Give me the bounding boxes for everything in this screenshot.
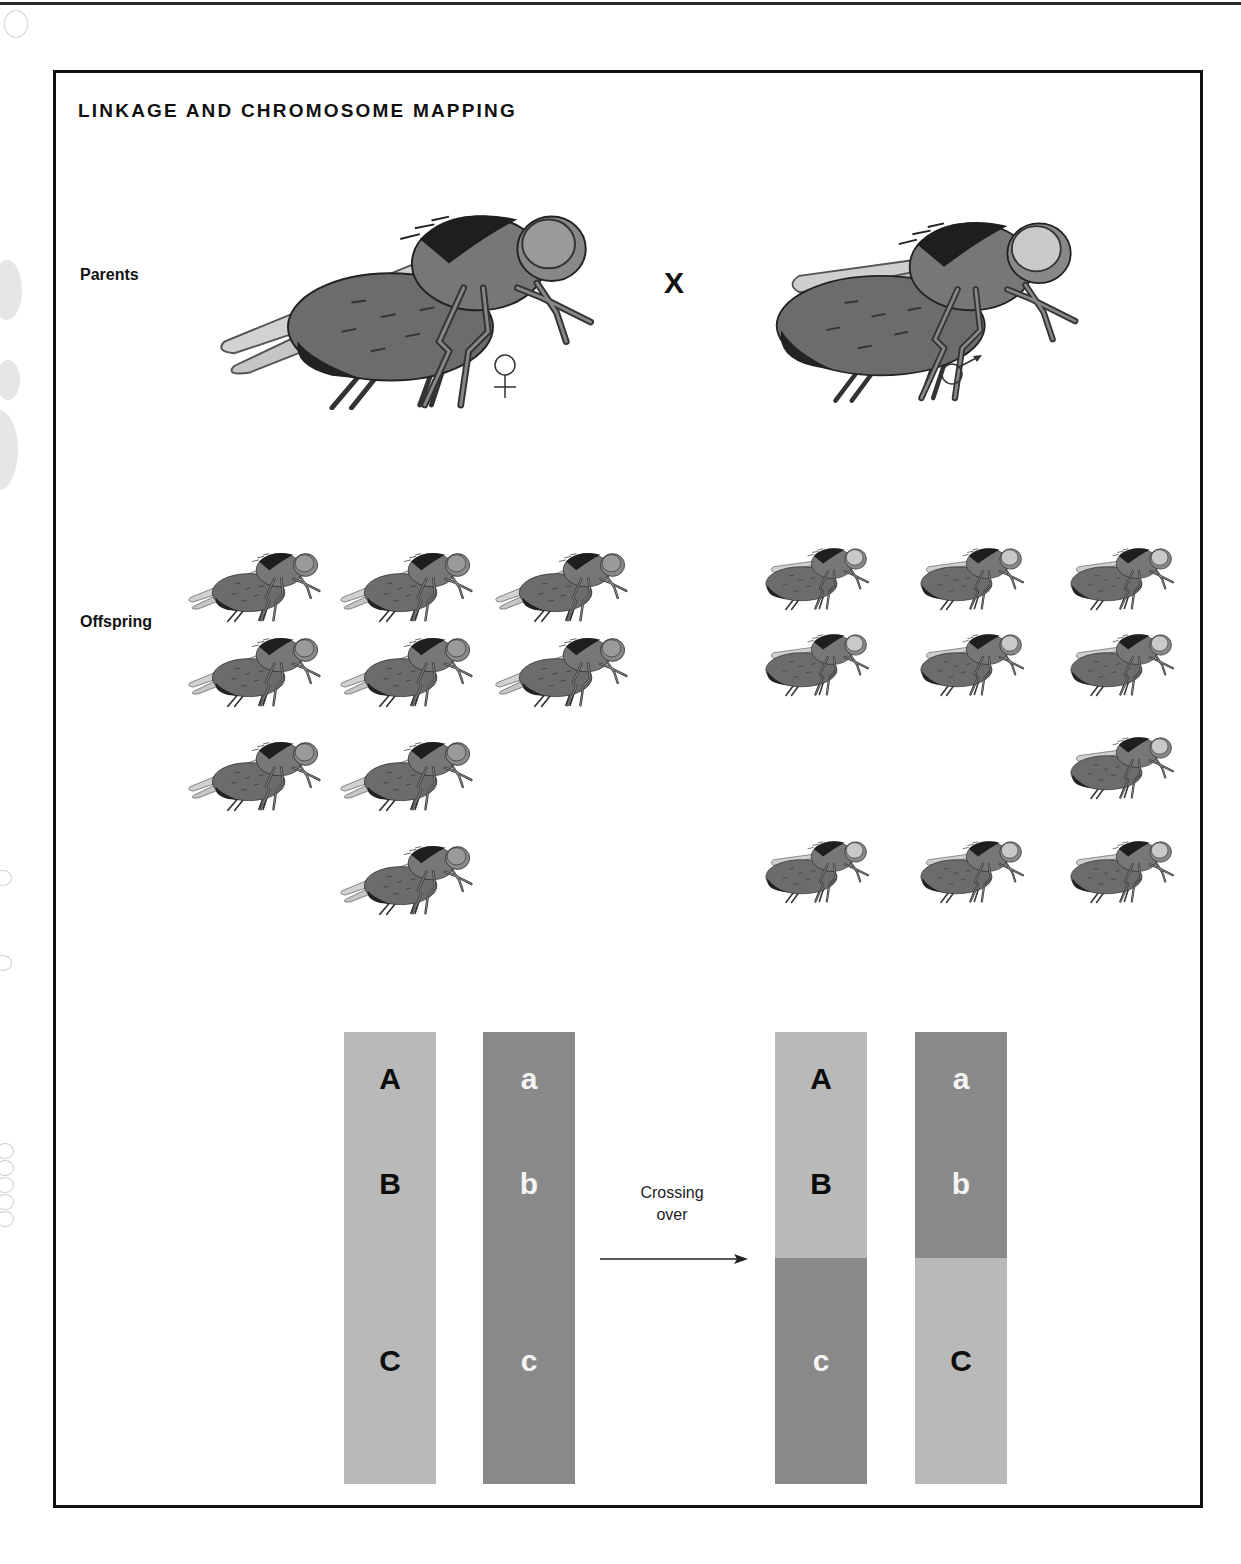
offspring-fly	[1060, 537, 1190, 615]
offspring-fly	[183, 545, 328, 623]
offspring-fly	[490, 545, 635, 623]
allele-label: A	[344, 1062, 436, 1096]
crossing-over-label-line1: Crossing	[612, 1182, 732, 1204]
offspring-fly	[755, 623, 885, 701]
chromosome-segment	[344, 1032, 436, 1484]
offspring-fly	[490, 630, 635, 708]
offspring-fly	[1060, 830, 1190, 908]
chromosome-after-1: A B c	[775, 1032, 867, 1484]
offspring-label: Offspring	[80, 613, 152, 631]
offspring-fly	[335, 545, 480, 623]
allele-label: b	[915, 1167, 1007, 1201]
chromosome-before-1: A B C	[344, 1032, 436, 1484]
allele-label: B	[344, 1167, 436, 1201]
offspring-fly	[910, 537, 1040, 615]
figure-title: LINKAGE AND CHROMOSOME MAPPING	[78, 100, 517, 122]
allele-label: a	[915, 1062, 1007, 1096]
right-arrow-icon	[600, 1252, 750, 1266]
allele-label: c	[483, 1344, 575, 1378]
offspring-fly	[335, 734, 480, 812]
male-parent-fly	[745, 198, 1125, 408]
offspring-fly	[183, 734, 328, 812]
offspring-fly	[755, 830, 885, 908]
cross-symbol: X	[664, 266, 684, 300]
offspring-fly	[755, 537, 885, 615]
female-parent-fly	[205, 195, 615, 410]
chromosome-segment	[483, 1032, 575, 1484]
offspring-fly	[335, 838, 480, 916]
crossing-over-label-line2: over	[612, 1204, 732, 1226]
allele-label: A	[775, 1062, 867, 1096]
female-symbol-icon	[490, 352, 520, 402]
offspring-fly	[1060, 623, 1190, 701]
top-rule	[0, 2, 1241, 5]
chromosome-after-2: a b C	[915, 1032, 1007, 1484]
allele-label: c	[775, 1344, 867, 1378]
allele-label: B	[775, 1167, 867, 1201]
male-symbol-icon	[938, 352, 986, 388]
crossing-over-label: Crossing over	[612, 1182, 732, 1226]
allele-label: C	[344, 1344, 436, 1378]
offspring-fly	[1060, 726, 1190, 804]
offspring-fly	[183, 630, 328, 708]
parents-label: Parents	[80, 266, 139, 284]
offspring-fly	[910, 623, 1040, 701]
left-margin-decoration	[0, 0, 24, 1564]
chromosome-before-2: a b c	[483, 1032, 575, 1484]
allele-label: b	[483, 1167, 575, 1201]
offspring-fly	[910, 830, 1040, 908]
allele-label: a	[483, 1062, 575, 1096]
offspring-fly	[335, 630, 480, 708]
allele-label: C	[915, 1344, 1007, 1378]
